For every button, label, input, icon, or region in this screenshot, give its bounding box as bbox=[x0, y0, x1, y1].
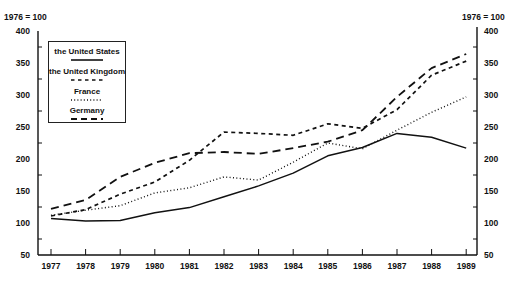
x-tick-label: 1982 bbox=[215, 261, 234, 271]
x-tick-label: 1980 bbox=[145, 261, 164, 271]
long-dash-line-swatch-icon bbox=[71, 117, 103, 121]
legend-item-france: France bbox=[49, 87, 125, 102]
solid-line-swatch-icon bbox=[71, 58, 103, 62]
x-tick-label: 1983 bbox=[249, 261, 268, 271]
x-tick-label: 1984 bbox=[284, 261, 303, 271]
series-line-the-united-states bbox=[51, 133, 466, 221]
y-tick-label-left: 250 bbox=[16, 122, 30, 132]
y-tick-label-right: 300 bbox=[484, 90, 498, 100]
legend-item-united-states: the United States bbox=[49, 47, 125, 62]
x-tick-label: 1977 bbox=[42, 261, 61, 271]
y-tick-label-left: 350 bbox=[16, 58, 30, 68]
y-tick-label-right: 250 bbox=[484, 122, 498, 132]
x-tick-label: 1989 bbox=[457, 261, 476, 271]
legend-label: the United Kingdom bbox=[49, 67, 125, 77]
x-tick-label: 1985 bbox=[318, 261, 337, 271]
x-tick-label: 1981 bbox=[180, 261, 199, 271]
y-tick-label-left: 150 bbox=[16, 186, 30, 196]
x-tick-label: 1978 bbox=[76, 261, 95, 271]
y-tick-label-right: 400 bbox=[484, 26, 498, 36]
y-tick-label-left: 400 bbox=[16, 26, 30, 36]
x-tick-label: 1979 bbox=[111, 261, 130, 271]
y-tick-label-right: 50 bbox=[484, 250, 494, 260]
right-axis-base-label: 1976 = 100 bbox=[462, 12, 505, 22]
dotted-line-swatch-icon bbox=[71, 98, 103, 102]
legend-label: Germany bbox=[49, 106, 125, 116]
y-tick-label-left: 300 bbox=[16, 90, 30, 100]
legend-label: the United States bbox=[49, 47, 125, 57]
legend-item-united-kingdom: the United Kingdom bbox=[49, 67, 125, 82]
y-tick-label-right: 200 bbox=[484, 154, 498, 164]
x-tick-label: 1988 bbox=[422, 261, 441, 271]
y-tick-label-right: 100 bbox=[484, 218, 498, 228]
legend-label: France bbox=[49, 87, 125, 97]
y-tick-label-left: 200 bbox=[16, 154, 30, 164]
legend-item-germany: Germany bbox=[49, 106, 125, 121]
x-tick-label: 1986 bbox=[353, 261, 372, 271]
x-tick-label: 1987 bbox=[388, 261, 407, 271]
y-tick-label-left: 100 bbox=[16, 218, 30, 228]
short-dash-line-swatch-icon bbox=[71, 78, 103, 82]
y-tick-label-left: 50 bbox=[21, 250, 31, 260]
left-axis-base-label: 1976 = 100 bbox=[4, 12, 47, 22]
y-tick-label-right: 350 bbox=[484, 58, 498, 68]
chart-legend: the United States the United Kingdom Fra… bbox=[48, 41, 126, 123]
y-tick-label-right: 150 bbox=[484, 186, 498, 196]
